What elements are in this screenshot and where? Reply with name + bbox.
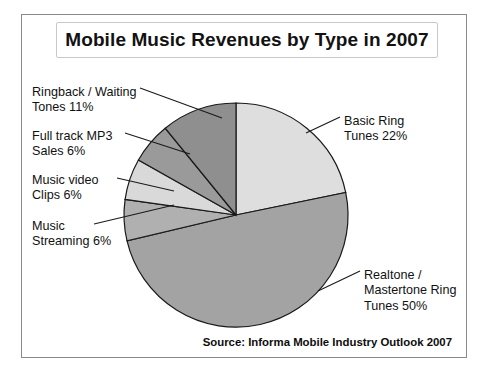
- pie-label-musicvideo: Music video Clips 6%: [32, 173, 99, 204]
- pie-label-realtone: Realtone / Mastertone Ring Tunes 50%: [364, 268, 456, 314]
- pie-label-basicring: Basic Ring Tunes 22%: [344, 114, 407, 145]
- chart-source-note: Source: Informa Mobile Industry Outlook …: [203, 336, 452, 348]
- pie-label-ringback: Ringback / Waiting Tones 11%: [32, 85, 137, 116]
- chart-frame: Mobile Music Revenues by Type in 2007 Ri…: [21, 14, 467, 358]
- leader-line-basicring: [306, 117, 340, 133]
- leader-line-ringback: [140, 88, 222, 118]
- pie-label-streaming: Music Streaming 6%: [32, 219, 111, 250]
- pie-slices: [124, 103, 348, 327]
- pie-label-fulltrack: Full track MP3 Sales 6%: [32, 129, 112, 160]
